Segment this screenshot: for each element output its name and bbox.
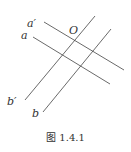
label-a-prime: a′ [27,17,37,30]
label-a: a [21,29,28,42]
label-b-prime: b′ [7,95,17,108]
figure-caption: 图 1.4.1 [0,129,131,144]
label-b: b [32,107,39,120]
label-point-O: O [69,24,78,37]
